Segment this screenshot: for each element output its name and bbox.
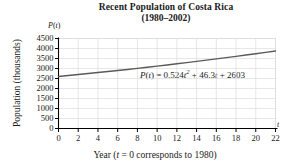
x-tick-label: 8 xyxy=(129,134,145,143)
x-tick-label: 22 xyxy=(268,134,284,143)
y-tick-label: 3500 xyxy=(26,54,54,63)
x-tick-label: 16 xyxy=(208,134,224,143)
y-tick-label: 2000 xyxy=(26,84,54,93)
x-tick-label: 20 xyxy=(248,134,264,143)
y-tick-label: 500 xyxy=(26,114,54,123)
data-series-line-0 xyxy=(59,51,276,76)
y-tick-label: 4500 xyxy=(26,34,54,43)
x-tick-label: 2 xyxy=(70,134,86,143)
x-tick-label: 18 xyxy=(228,134,244,143)
y-tick-label: 1500 xyxy=(26,94,54,103)
x-tick-label: 12 xyxy=(169,134,185,143)
x-tick-label: 0 xyxy=(51,134,67,143)
y-tick-label: 0 xyxy=(26,124,54,133)
y-tick-label: 2500 xyxy=(26,74,54,83)
y-tick-label: 1000 xyxy=(26,104,54,113)
x-tick-label: 4 xyxy=(90,134,106,143)
x-tick-label: 10 xyxy=(149,134,165,143)
y-tick-label: 4000 xyxy=(26,44,54,53)
gridlines xyxy=(59,39,276,129)
x-tick-label: 14 xyxy=(189,134,205,143)
y-tick-label: 3000 xyxy=(26,64,54,73)
tick-marks xyxy=(55,39,276,133)
figure-container: Recent Population of Costa Rica (1980–20… xyxy=(0,0,292,167)
axes xyxy=(59,38,278,129)
x-tick-label: 6 xyxy=(110,134,126,143)
